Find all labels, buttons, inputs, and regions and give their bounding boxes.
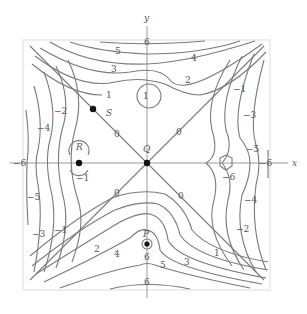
contours-top bbox=[32, 41, 266, 108]
contour-label: −4 bbox=[244, 195, 258, 205]
contour-label: −5 bbox=[27, 192, 41, 202]
contour-label: −2 bbox=[54, 106, 67, 116]
x-tick-left: −6 bbox=[13, 158, 27, 168]
contour-label: −2 bbox=[236, 224, 249, 234]
contour-label: 2 bbox=[185, 75, 191, 85]
y-tick-top: 6 bbox=[144, 37, 150, 47]
y-axis-label: y bbox=[143, 13, 150, 23]
contour-label-zero: 0 bbox=[176, 127, 182, 137]
point-p-dot bbox=[144, 241, 149, 246]
x-axis-label: x bbox=[292, 158, 297, 168]
contour-label: −3 bbox=[243, 110, 257, 120]
point-s-label: S bbox=[106, 108, 112, 118]
contour-label-zero: 0 bbox=[114, 129, 120, 139]
contour-label: −3 bbox=[32, 229, 46, 239]
contour-label: 5 bbox=[115, 46, 121, 56]
contour-label: 2 bbox=[94, 244, 100, 254]
contour-label-zero: 0 bbox=[114, 188, 120, 198]
contour-label: 1 bbox=[143, 91, 149, 101]
contour-plot: y x 6 6 −6 −6 Q R −1 S P 6 5 3 1 4 2 1 −… bbox=[0, 0, 307, 314]
contour-label: −5 bbox=[246, 144, 260, 154]
contour-label: 3 bbox=[184, 257, 190, 267]
contour-label: 4 bbox=[114, 249, 120, 259]
contour-label: 1 bbox=[106, 90, 112, 100]
point-p-label: P bbox=[142, 229, 150, 239]
point-q-label: Q bbox=[143, 144, 151, 154]
contour-label: 5 bbox=[160, 260, 166, 270]
contour-label: −4 bbox=[37, 123, 51, 133]
y-tick-bottom: 6 bbox=[144, 277, 150, 287]
contour-label: 1 bbox=[214, 248, 220, 258]
point-s-dot bbox=[90, 106, 96, 112]
point-q-dot bbox=[144, 160, 150, 166]
contour-label: −6 bbox=[222, 172, 236, 182]
point-r-label: R bbox=[75, 142, 83, 152]
contour-label: −1 bbox=[233, 84, 246, 94]
contour-label: −1 bbox=[54, 225, 67, 235]
contour-label: 3 bbox=[111, 64, 117, 74]
point-r-value: −1 bbox=[76, 173, 89, 183]
point-r-dot bbox=[76, 160, 82, 166]
point-p-value: 6 bbox=[144, 252, 150, 262]
x-tick-right: −6 bbox=[259, 158, 273, 168]
contour-label: 4 bbox=[191, 53, 197, 63]
contour-label-zero: 0 bbox=[178, 191, 184, 201]
contours-bottom bbox=[30, 192, 268, 289]
